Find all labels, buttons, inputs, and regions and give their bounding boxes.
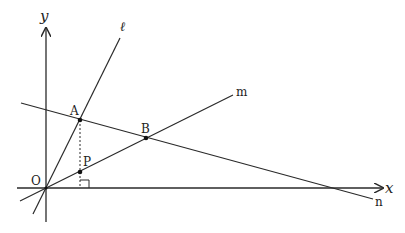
point-a (78, 118, 83, 123)
point-a-label: A (69, 104, 79, 118)
line-l-label: ℓ (120, 19, 126, 34)
coordinate-diagram: y x O ℓ m n A B P (0, 0, 405, 233)
point-b-label: B (141, 122, 150, 136)
point-o (44, 186, 47, 189)
y-axis-label: y (39, 7, 49, 25)
point-p (78, 170, 83, 175)
line-n-label: n (375, 195, 383, 209)
right-angle-marker (80, 180, 89, 188)
x-axis-label: x (385, 179, 394, 197)
origin-label: O (31, 174, 41, 188)
line-m-label: m (236, 85, 248, 99)
point-b (144, 136, 149, 141)
point-p-label: P (83, 155, 91, 169)
